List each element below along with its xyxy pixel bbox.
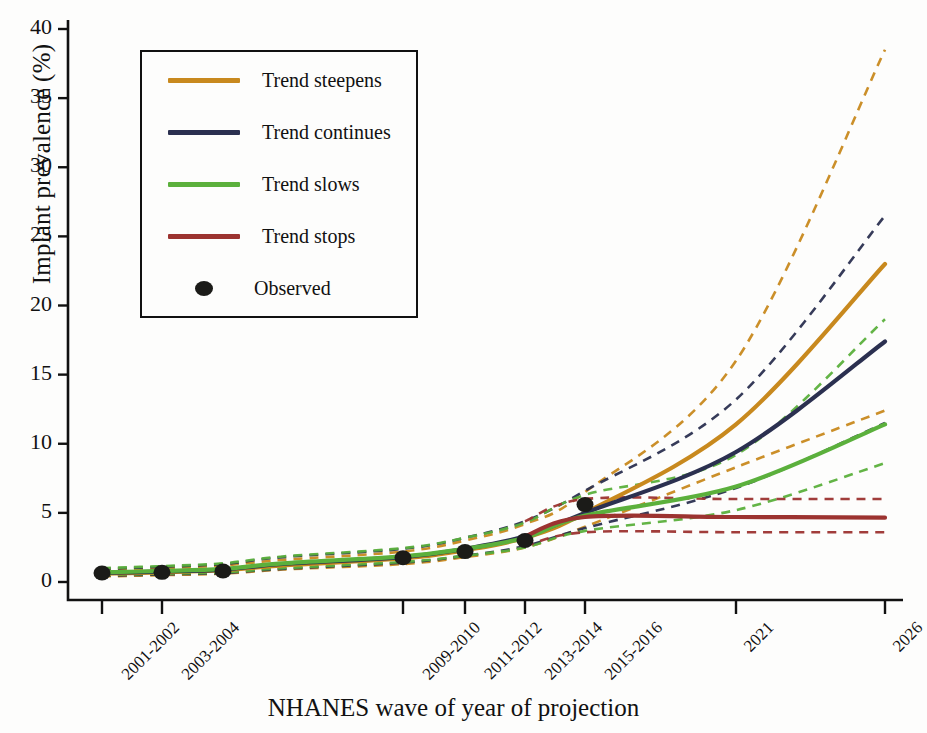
legend-marker-observed (195, 281, 213, 296)
legend-swatch-trend-continues (168, 130, 240, 135)
y-tick-15: 15 (10, 360, 52, 386)
legend-swatch-trend-slows (168, 182, 240, 187)
legend-label-trend-slows: Trend slows (262, 173, 360, 196)
y-tick-40: 40 (10, 14, 52, 40)
y-tick-5: 5 (10, 498, 52, 524)
y-tick-0: 0 (10, 567, 52, 593)
y-tick-30: 30 (10, 152, 52, 178)
legend-label-observed: Observed (254, 277, 331, 300)
legend-label-trend-steepens: Trend steepens (262, 69, 382, 92)
legend-label-trend-continues: Trend continues (262, 121, 391, 144)
legend-swatch-trend-stops (168, 234, 240, 239)
chart-legend: Trend steepens Trend continues Trend slo… (140, 50, 418, 318)
y-tick-35: 35 (10, 83, 52, 109)
x-axis-label: NHANES wave of year of projection (0, 694, 907, 722)
y-tick-10: 10 (10, 429, 52, 455)
y-tick-20: 20 (10, 291, 52, 317)
legend-label-trend-stops: Trend stops (262, 225, 355, 248)
y-tick-25: 25 (10, 221, 52, 247)
legend-swatch-trend-steepens (168, 78, 240, 83)
